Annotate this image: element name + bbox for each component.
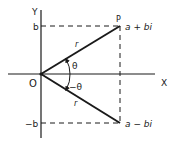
tick-label-neg-b: −b bbox=[25, 119, 39, 129]
upper-r-label: r bbox=[75, 40, 79, 49]
theta-arc bbox=[67, 60, 71, 74]
conjugate-value: a − bi bbox=[125, 119, 152, 129]
tick-label-b: b bbox=[33, 22, 39, 32]
point-p-value: a + bi bbox=[125, 22, 152, 32]
theta-label: θ bbox=[72, 61, 78, 71]
y-axis-label: Y bbox=[31, 7, 38, 17]
neg-theta-label: −θ bbox=[69, 82, 83, 92]
lower-r-label: r bbox=[74, 99, 78, 108]
complex-plane-diagram: Y X O b −b P a + bi a − bi r r θ −θ bbox=[0, 0, 177, 150]
origin-label: O bbox=[29, 78, 37, 89]
origin-point bbox=[39, 72, 42, 75]
point-p-label: P bbox=[116, 15, 121, 24]
vector-to-p bbox=[41, 26, 120, 74]
x-axis-label: X bbox=[161, 78, 167, 88]
